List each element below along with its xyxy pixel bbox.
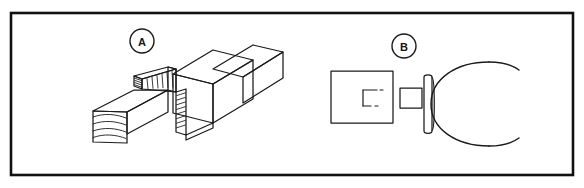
- panel-a-label: A: [138, 36, 146, 48]
- figure-border: [11, 13, 573, 175]
- figure-container: A B: [0, 0, 584, 188]
- panel-b-label: B: [400, 41, 408, 53]
- technical-diagram: A B: [0, 0, 584, 188]
